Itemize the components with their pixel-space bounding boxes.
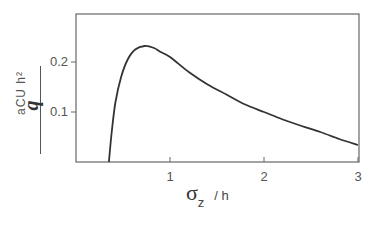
x-axis-label: σz/ h [186, 180, 229, 210]
x-label-rest: / h [214, 188, 228, 203]
x-label-subscript: z [198, 195, 205, 210]
y-tick-label: 0.1 [50, 104, 68, 119]
x-tick-label: 3 [354, 169, 361, 184]
data-curve [109, 46, 358, 162]
x-tick-label: 1 [166, 169, 173, 184]
x-tick-label: 2 [260, 169, 267, 184]
y-axis-label: aCU h² q [14, 66, 36, 156]
y-ticks: 0.10.2 [50, 54, 76, 119]
sigma-symbol: σ [186, 180, 198, 205]
y-label-numerator: aCU h² [14, 58, 28, 128]
y-label-denominator: q [20, 101, 43, 111]
y-tick-label: 0.2 [50, 54, 68, 69]
